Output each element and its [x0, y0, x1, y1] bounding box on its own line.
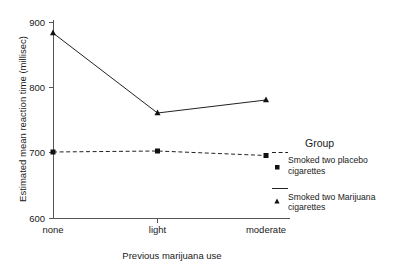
- chart-canvas: 600 700 800 900 none light moderate Esti…: [0, 0, 399, 275]
- legend-marker-square: [275, 165, 280, 170]
- x-tick-label-moderate: moderate: [246, 224, 286, 235]
- line-chart: 600 700 800 900 none light moderate Esti…: [0, 0, 399, 275]
- data-point-marijuana-none: [50, 30, 56, 36]
- x-tick-label-light: light: [149, 224, 167, 235]
- y-tick-label-700: 700: [29, 147, 45, 158]
- data-point-marijuana-moderate: [263, 97, 269, 103]
- y-tick-label-600: 600: [29, 213, 45, 224]
- data-point-placebo-none: [51, 150, 56, 155]
- data-point-placebo-light: [155, 149, 160, 154]
- y-tick-label-800: 800: [29, 82, 45, 93]
- series-line-marijuana: [53, 33, 266, 113]
- legend-title: Group: [305, 137, 334, 149]
- x-tick-label-none: none: [42, 224, 63, 235]
- data-point-placebo-moderate: [264, 153, 269, 158]
- legend-label-placebo-line2: cigarettes: [288, 166, 325, 176]
- legend-label-placebo-line1: Smoked two placebo: [288, 155, 368, 165]
- x-axis-title: Previous marijuana use: [122, 250, 221, 261]
- legend-label-marijuana-line2: cigarettes: [288, 202, 325, 212]
- legend-label-marijuana-line1: Smoked two Marijuana: [288, 192, 376, 202]
- legend-marker-triangle: [274, 199, 279, 204]
- y-tick-label-900: 900: [29, 17, 45, 28]
- y-axis-title: Estimated mean reaction time (millisec): [17, 36, 28, 202]
